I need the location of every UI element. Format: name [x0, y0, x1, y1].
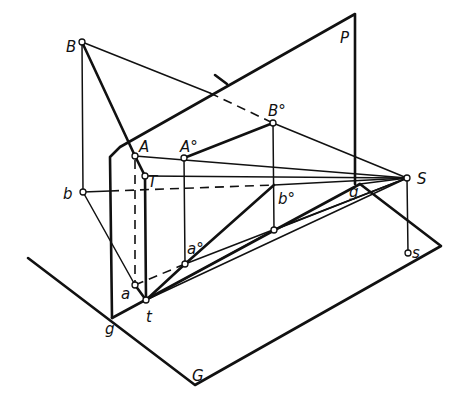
sightline-A-S [135, 156, 407, 178]
point-s [405, 250, 411, 256]
line-b-a [83, 192, 135, 285]
label-S: S [417, 170, 427, 188]
line-B-A [82, 42, 135, 156]
point-B [79, 39, 85, 45]
label-P: P [340, 29, 350, 47]
point-S [404, 175, 410, 181]
label-a: a [121, 285, 130, 303]
image-B0-b0 [273, 123, 274, 230]
label-s: s [412, 244, 420, 262]
label-B: B [66, 38, 76, 56]
label-G: G [192, 367, 204, 385]
point-a0 [182, 261, 188, 267]
point-A [132, 153, 138, 159]
image-A0-a0 [184, 158, 185, 264]
label-b: b [63, 185, 73, 203]
label-a0: a° [187, 240, 204, 258]
point-b0 [271, 227, 277, 233]
point-t [143, 297, 149, 303]
line-B-b [82, 42, 83, 192]
sightline-b-plane [83, 191, 110, 192]
sightline-B-S-hidden [210, 93, 273, 123]
label-g-left: g [105, 320, 115, 338]
label-A: A [138, 138, 149, 156]
ground-plane-edge [28, 184, 441, 385]
label-b0: b° [278, 190, 295, 208]
point-a [132, 282, 138, 288]
line-S-s [407, 178, 408, 253]
point-B0 [270, 120, 276, 126]
point-b [80, 189, 86, 195]
perspective-diagram: B b A T A° B° b° a° a t g g S s P G [0, 0, 461, 405]
sightline-b0-S [274, 178, 407, 185]
label-B0: B° [268, 102, 286, 120]
label-A0: A° [179, 138, 198, 156]
label-g-right: g [349, 183, 359, 201]
plane-tick-mark [215, 75, 227, 84]
line-T-t [145, 176, 146, 300]
sightline-B0-S [273, 123, 407, 178]
label-t: t [146, 308, 153, 326]
